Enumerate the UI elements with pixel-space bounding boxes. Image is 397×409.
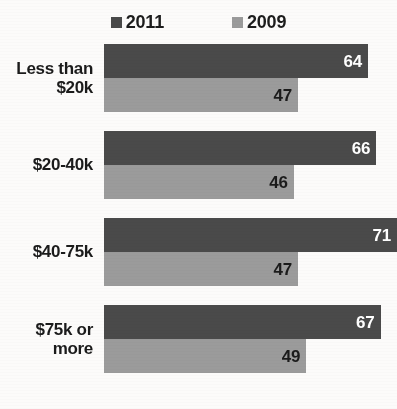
bar-2009[interactable]: 47: [104, 78, 298, 112]
bar-pair: 64 47: [104, 44, 397, 112]
square-marker-icon: [232, 17, 243, 28]
bar-value-label: 46: [269, 174, 288, 191]
square-marker-icon: [111, 17, 122, 28]
category-label-line1: Less than: [16, 59, 93, 78]
bar-value-label: 66: [352, 140, 371, 157]
chart-legend: 2011 2009: [0, 8, 397, 36]
bar-value-label: 67: [356, 314, 375, 331]
bar-pair: 66 46: [104, 131, 397, 199]
bar-value-label: 49: [282, 348, 301, 365]
bar-2011[interactable]: 64: [104, 44, 368, 78]
bar-value-label: 47: [273, 261, 292, 278]
bar-2009[interactable]: 49: [104, 339, 306, 373]
category-group: Less than $20k 64 47: [0, 44, 397, 112]
category-group: $75k or more 67 49: [0, 305, 397, 373]
plot-area: Less than $20k 64 47 $20-40k 66: [0, 44, 397, 404]
category-label-line2: more: [53, 339, 93, 358]
category-label-line2: $20k: [56, 78, 93, 97]
bar-pair: 67 49: [104, 305, 397, 373]
legend-item-2011[interactable]: 2011: [111, 13, 164, 31]
bar-2011[interactable]: 71: [104, 218, 397, 252]
category-label: $75k or more: [0, 305, 98, 373]
category-label: $40-75k: [0, 218, 98, 286]
category-label: $20-40k: [0, 131, 98, 199]
category-label-line1: $40-75k: [33, 242, 93, 261]
bar-2011[interactable]: 66: [104, 131, 376, 165]
bar-value-label: 71: [372, 227, 391, 244]
bar-value-label: 64: [343, 53, 362, 70]
category-group: $40-75k 71 47: [0, 218, 397, 286]
bar-pair: 71 47: [104, 218, 397, 286]
bar-value-label: 47: [273, 87, 292, 104]
legend-label-2011: 2011: [126, 13, 164, 31]
bar-2009[interactable]: 46: [104, 165, 294, 199]
category-label-line1: $75k or: [36, 320, 93, 339]
category-group: $20-40k 66 46: [0, 131, 397, 199]
bar-2009[interactable]: 47: [104, 252, 298, 286]
bar-2011[interactable]: 67: [104, 305, 381, 339]
legend-item-2009[interactable]: 2009: [232, 13, 286, 31]
category-label: Less than $20k: [0, 44, 98, 112]
bar-chart: 2011 2009 Less than $20k 64 47 $2: [0, 0, 397, 409]
legend-label-2009: 2009: [247, 13, 286, 31]
category-label-line1: $20-40k: [33, 155, 93, 174]
